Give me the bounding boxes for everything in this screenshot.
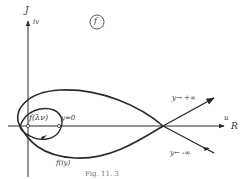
point-label-f-lambda: f(λν) bbox=[29, 114, 48, 122]
point-y-zero bbox=[57, 124, 60, 127]
point-f-lambda bbox=[26, 124, 29, 127]
figure-caption: Fig. 11. 3 bbox=[85, 171, 119, 178]
horizontal-axis-sublabel: R bbox=[231, 122, 238, 131]
y-plus-inf-label: y→ +∞ bbox=[172, 95, 196, 102]
y-minus-inf-label: y← -∞ bbox=[170, 150, 190, 157]
y-zero-label: y=0 bbox=[61, 115, 75, 122]
asymptote-plus bbox=[163, 98, 214, 126]
panel-label: f bbox=[94, 17, 97, 25]
vertical-axis-label: J bbox=[25, 6, 29, 15]
horizontal-axis-label: u bbox=[224, 115, 229, 122]
nyquist-diagram bbox=[0, 0, 246, 179]
panel-label-circle bbox=[90, 15, 104, 29]
curve-label-f-iy: f(iy) bbox=[56, 160, 70, 167]
vertical-axis-sublabel: iv bbox=[33, 19, 39, 26]
outer-loop-curve bbox=[18, 90, 163, 158]
